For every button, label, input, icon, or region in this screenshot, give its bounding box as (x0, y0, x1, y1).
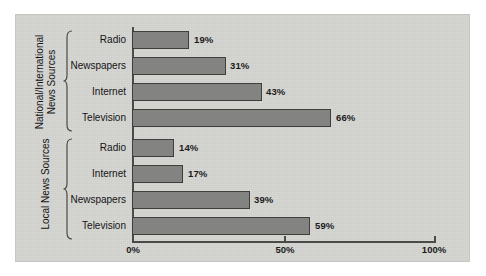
group-title-line-2: News Sources (46, 32, 58, 132)
category-label-natl-newspapers: Newspapers (70, 57, 126, 75)
x-axis-tick-label-50: 50% (271, 244, 299, 255)
bar-natl-television (132, 109, 331, 127)
category-label-local-television: Television (82, 217, 126, 235)
bar-natl-radio (132, 31, 189, 49)
bar-natl-internet (132, 83, 262, 101)
category-label-local-newspapers: Newspapers (70, 191, 126, 209)
bar-natl-newspapers (132, 57, 226, 75)
bar-value-natl-radio: 19% (194, 31, 213, 49)
bar-value-natl-television: 66% (336, 109, 355, 127)
category-label-natl-internet: Internet (92, 83, 126, 101)
group-title-local: Local News Sources (40, 136, 52, 232)
bar-local-internet (132, 165, 183, 183)
bar-value-natl-newspapers: 31% (230, 57, 249, 75)
category-label-natl-radio: Radio (100, 31, 126, 49)
bar-value-local-newspapers: 39% (254, 191, 273, 209)
group-title-line-1-local: Local News Sources (40, 136, 52, 232)
bar-local-television (132, 217, 310, 235)
category-label-natl-television: Television (82, 109, 126, 127)
bar-value-local-television: 59% (315, 217, 334, 235)
x-axis-tick-label-0: 0% (120, 244, 146, 255)
x-axis-tick-label-100: 100% (416, 244, 452, 255)
bar-value-local-internet: 17% (188, 165, 207, 183)
category-label-local-internet: Internet (92, 165, 126, 183)
group-title-line-1: National/International (34, 32, 46, 132)
x-axis-line (132, 241, 436, 243)
bar-value-local-radio: 14% (179, 139, 198, 157)
group-bracket-local (63, 138, 73, 240)
bar-value-natl-internet: 43% (266, 83, 285, 101)
group-bracket-national-international (63, 30, 73, 132)
chart-figure: 0% 50% 100% National/International News … (0, 0, 486, 276)
group-title-national-international: National/International News Sources (34, 32, 58, 132)
bar-local-radio (132, 139, 174, 157)
bar-local-newspapers (132, 191, 250, 209)
x-axis-tick-0 (132, 236, 134, 241)
x-axis-tick-50 (284, 236, 286, 241)
category-label-local-radio: Radio (100, 139, 126, 157)
x-axis-tick-100 (434, 236, 436, 241)
